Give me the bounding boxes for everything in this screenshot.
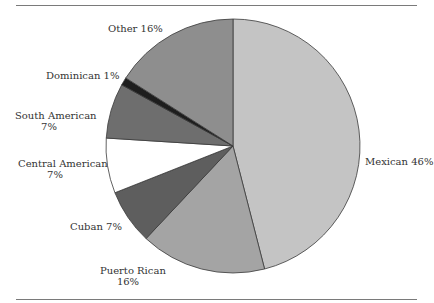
- label-south-american: South American 7%: [15, 110, 83, 132]
- bottom-rule: [16, 299, 417, 300]
- label-central-american: Central American 7%: [18, 158, 92, 180]
- label-puerto-rican: Puerto Rican 16%: [100, 265, 156, 287]
- label-other: Other 16%: [108, 23, 163, 34]
- label-dominican: Dominican 1%: [46, 70, 119, 81]
- label-mexican: Mexican 46%: [365, 156, 433, 167]
- pie-chart: [0, 0, 434, 303]
- label-cuban: Cuban 7%: [70, 221, 122, 232]
- pie-slices: [106, 19, 360, 273]
